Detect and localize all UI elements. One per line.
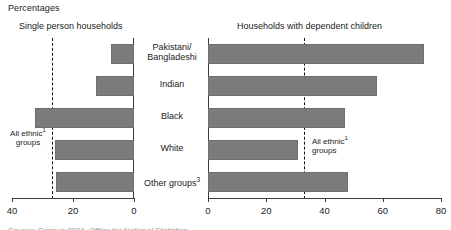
axis-tick-label: 60 [377, 205, 388, 216]
axis-tick-label: 40 [319, 205, 330, 216]
bar-row [12, 172, 134, 192]
right-ref-footnote-marker: 1 [344, 135, 347, 141]
axis-tick [383, 198, 384, 202]
left-ref-footnote-marker: 1 [43, 127, 46, 133]
bar-row [208, 44, 441, 64]
left-ref-line1: All ethnic [10, 129, 42, 138]
footnote-strip: Source: Census 2001, Office for National… [8, 226, 188, 230]
axis-tick [266, 198, 267, 202]
left-bar-other-groups [56, 172, 134, 192]
bar-row [12, 108, 134, 128]
left-panel-title: Single person households [19, 21, 123, 31]
left-bar-pakistani-bangladeshi [111, 44, 134, 64]
left-bar-white [55, 140, 134, 160]
bar-row [208, 172, 441, 192]
right-bar-other-groups [208, 172, 348, 192]
bar-row [12, 44, 134, 64]
left-ref-line2: groups [16, 138, 40, 147]
axis-tick [441, 198, 442, 202]
left-reference-line-label: All ethnic1 groups [5, 126, 51, 147]
axis-tick-label: 20 [68, 205, 79, 216]
axis-tick-label: 40 [7, 205, 18, 216]
left-bar-indian [96, 76, 134, 96]
bar-row [208, 108, 441, 128]
axis-tick [73, 198, 74, 202]
right-panel-title: Households with dependent children [237, 21, 382, 31]
right-chart-plot-area [208, 38, 441, 198]
right-ref-line2: groups [312, 146, 336, 155]
right-reference-line-label: All ethnic1 groups [312, 134, 348, 155]
right-bar-pakistani-bangladeshi [208, 44, 424, 64]
bar-row [208, 76, 441, 96]
axis-tick-label: 20 [261, 205, 272, 216]
right-bar-indian [208, 76, 377, 96]
axis-tick [208, 198, 209, 202]
left-chart-plot-area [12, 38, 134, 198]
axis-tick [325, 198, 326, 202]
bar-row [12, 76, 134, 96]
axis-tick-label: 80 [436, 205, 447, 216]
axis-tick-label: 0 [205, 205, 210, 216]
category-label-other-groups: Other groups3 [137, 175, 207, 188]
right-bar-white [208, 140, 298, 160]
category-label-pakistani-bangladeshi: Pakistani/Bangladeshi [137, 42, 207, 62]
axis-tick [12, 198, 13, 202]
left-bar-black [35, 108, 134, 128]
category-label-indian: Indian [137, 79, 207, 89]
right-bar-black [208, 108, 345, 128]
category-label-black: Black [137, 111, 207, 121]
category-label-white: White [137, 143, 207, 153]
axis-tick-label: 0 [131, 205, 136, 216]
right-ref-line1: All ethnic [312, 137, 344, 146]
units-label: Percentages [8, 3, 60, 13]
axis-tick [134, 198, 135, 202]
